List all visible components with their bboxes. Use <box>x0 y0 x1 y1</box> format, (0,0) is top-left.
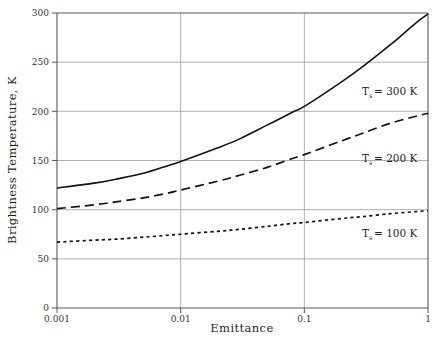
series-annotation: Ts= 100 K <box>362 227 418 242</box>
y-tick-label: 300 <box>32 8 49 18</box>
y-tick-label: 250 <box>32 57 49 67</box>
y-tick-labels: 050100150200250300 <box>32 8 49 313</box>
x-tick-label: 0.1 <box>297 314 311 324</box>
data-series-line-dotted <box>57 211 428 242</box>
x-tick-label: 0.001 <box>44 314 70 324</box>
x-tick-marks <box>57 308 428 313</box>
y-axis-title: Brightness Temperature, K <box>5 76 19 244</box>
y-tick-label: 150 <box>32 156 49 166</box>
annotation-subscript: s <box>369 234 372 242</box>
x-tick-label: 1 <box>425 314 431 324</box>
annotation-value: = 200 K <box>374 152 418 164</box>
annotation-value: = 300 K <box>374 85 418 97</box>
x-axis-title: Emittance <box>210 321 273 335</box>
y-tick-label: 200 <box>32 107 49 117</box>
x-tick-label: 0.01 <box>171 314 191 324</box>
annotation-subscript: s <box>369 159 372 167</box>
chart-svg: 050100150200250300 0.0010.010.11 Ts= 300… <box>0 0 443 338</box>
y-tick-label: 0 <box>43 303 49 313</box>
series-annotation: Ts= 200 K <box>362 152 418 167</box>
chart-figure: 050100150200250300 0.0010.010.11 Ts= 300… <box>0 0 443 338</box>
data-series-line-solid <box>57 14 428 188</box>
y-tick-label: 100 <box>32 205 49 215</box>
data-series-group <box>57 14 428 242</box>
y-tick-marks <box>52 13 57 308</box>
annotation-value: = 100 K <box>374 227 418 239</box>
grid-lines <box>57 13 428 308</box>
series-annotations: Ts= 300 KTs= 200 KTs= 100 K <box>362 85 418 242</box>
annotation-symbol: T <box>362 227 369 239</box>
y-tick-label: 50 <box>38 254 50 264</box>
annotation-symbol: T <box>362 152 369 164</box>
annotation-symbol: T <box>362 85 369 97</box>
data-series-line-dashed <box>57 113 428 208</box>
series-annotation: Ts= 300 K <box>362 85 418 100</box>
annotation-subscript: s <box>369 92 372 100</box>
